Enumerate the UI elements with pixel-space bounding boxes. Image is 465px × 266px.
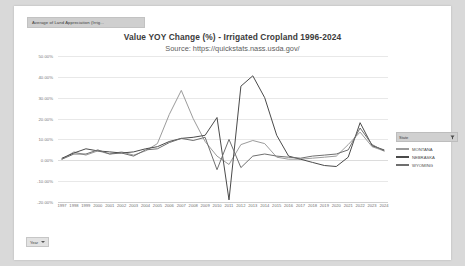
x-axis-tick: 2001 <box>105 203 114 208</box>
x-axis-tick: 2007 <box>177 203 186 208</box>
chevron-down-icon[interactable] <box>41 241 45 243</box>
legend-entries: MONTANANEBRASKAWYOMING <box>396 142 458 169</box>
x-axis-tick: 2022 <box>356 203 365 208</box>
legend-item-label: NEBRASKA <box>412 155 435 160</box>
legend-item[interactable]: MONTANA <box>396 145 458 153</box>
legend-color-swatch <box>396 148 409 150</box>
legend-item-label: WYOMING <box>412 163 433 168</box>
x-axis-tick: 2020 <box>332 203 341 208</box>
legend-color-swatch <box>396 156 409 158</box>
line-series-group <box>58 56 388 202</box>
plot-area: 50.00%40.00%30.00%20.00%10.00%0.00%-10.0… <box>14 56 451 241</box>
x-axis-tick: 2018 <box>308 203 317 208</box>
x-axis-tick: 2012 <box>236 203 245 208</box>
x-axis-tick: 1999 <box>81 203 90 208</box>
year-filter-pill[interactable]: Year <box>26 237 49 247</box>
x-axis-tick: 2004 <box>141 203 150 208</box>
x-axis-tick: 2017 <box>296 203 305 208</box>
x-axis-tick: 2002 <box>117 203 126 208</box>
y-axis-tick: -20.00% <box>37 200 53 205</box>
y-axis-tick: 10.00% <box>38 137 53 142</box>
x-axis-tick: 2013 <box>248 203 257 208</box>
y-axis-tick: -10.00% <box>37 179 53 184</box>
x-axis-tick: 2021 <box>344 203 353 208</box>
x-axis-tick: 2019 <box>320 203 329 208</box>
legend-color-swatch <box>396 164 409 166</box>
x-axis-tick: 2011 <box>225 203 234 208</box>
x-axis-tick: 2016 <box>284 203 293 208</box>
funnel-icon[interactable] <box>450 135 455 140</box>
legend-item[interactable]: WYOMING <box>396 161 458 169</box>
line-series <box>62 128 384 170</box>
y-axis-tick: 50.00% <box>38 54 53 59</box>
x-axis-labels: 1997199819992000200120022003200420052006… <box>58 203 388 213</box>
y-axis-tick: 40.00% <box>38 74 53 79</box>
y-axis-tick: 20.00% <box>38 116 53 121</box>
sheet-tab[interactable]: Average of Land Appreciation (Irrig... <box>27 17 145 28</box>
legend: State MONTANANEBRASKAWYOMING <box>396 132 458 169</box>
x-axis-tick: 2005 <box>153 203 162 208</box>
x-axis-tick: 1997 <box>57 203 66 208</box>
x-axis-tick: 2014 <box>260 203 269 208</box>
legend-item-label: MONTANA <box>412 147 433 152</box>
y-axis-tick: 30.00% <box>38 95 53 100</box>
chart-title: Value YOY Change (%) - Irrigated Croplan… <box>14 32 451 42</box>
legend-filter-header[interactable]: State <box>396 132 458 142</box>
legend-header-label: State <box>399 135 408 140</box>
x-axis-tick: 2000 <box>93 203 102 208</box>
x-axis-tick: 2024 <box>379 203 388 208</box>
x-axis-tick: 2023 <box>368 203 377 208</box>
x-axis-tick: 2003 <box>129 203 138 208</box>
x-axis-tick: 2010 <box>212 203 221 208</box>
x-axis-tick: 1998 <box>69 203 78 208</box>
x-axis-tick: 2006 <box>165 203 174 208</box>
x-axis-tick: 2009 <box>201 203 210 208</box>
year-filter-label: Year <box>30 240 38 245</box>
dashboard-page: Average of Land Appreciation (Irrig... V… <box>14 6 451 260</box>
x-axis-tick: 2008 <box>189 203 198 208</box>
y-axis-labels: 50.00%40.00%30.00%20.00%10.00%0.00%-10.0… <box>14 56 56 202</box>
legend-item[interactable]: NEBRASKA <box>396 153 458 161</box>
y-axis-tick: 0.00% <box>41 158 53 163</box>
chart-subtitle: Source: https://quickstats.nass.usda.gov… <box>14 44 451 53</box>
plot-canvas <box>58 56 388 202</box>
x-axis-tick: 2015 <box>272 203 281 208</box>
line-series <box>62 76 384 200</box>
